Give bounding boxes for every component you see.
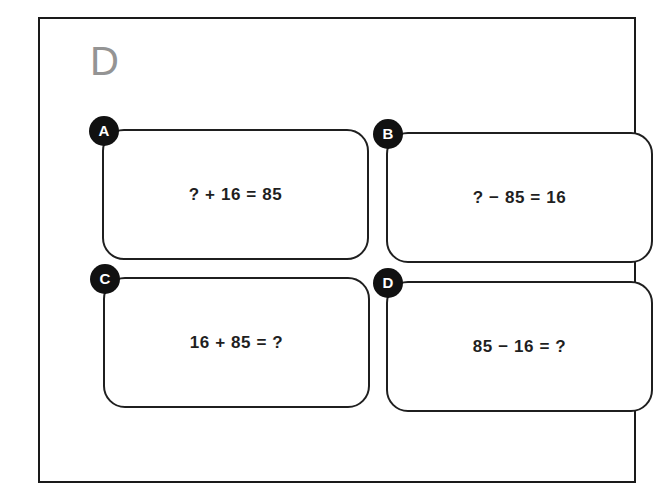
card-badge-a: A	[89, 116, 119, 146]
card-badge-b: B	[373, 119, 403, 149]
panel-letter: D	[90, 41, 119, 81]
equation-card-b[interactable]: B ? − 85 = 16	[386, 132, 653, 263]
equation-card-c[interactable]: C 16 + 85 = ?	[103, 277, 370, 408]
panel-frame: D A ? + 16 = 85 B ? − 85 = 16 C 16 + 85 …	[38, 17, 636, 483]
card-grid: A ? + 16 = 85 B ? − 85 = 16 C 16 + 85 = …	[102, 129, 654, 416]
card-badge-c: C	[90, 264, 120, 294]
equation-text-b: ? − 85 = 16	[388, 188, 651, 208]
card-badge-d: D	[373, 268, 403, 298]
figure-panel: D A ? + 16 = 85 B ? − 85 = 16 C 16 + 85 …	[0, 0, 660, 500]
equation-text-d: 85 − 16 = ?	[388, 337, 651, 357]
equation-card-d[interactable]: D 85 − 16 = ?	[386, 281, 653, 412]
equation-card-a[interactable]: A ? + 16 = 85	[102, 129, 369, 260]
equation-text-a: ? + 16 = 85	[104, 185, 367, 205]
equation-text-c: 16 + 85 = ?	[105, 333, 368, 353]
